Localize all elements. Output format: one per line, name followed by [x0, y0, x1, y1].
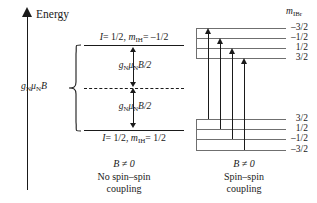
split-arrowhead-down-icon	[130, 123, 136, 128]
quantum-number-I-value: = 1/2,	[105, 132, 128, 143]
splitting-label-lower: gNμNB/2	[104, 101, 166, 112]
lower-level-label-left: I= 1/2, mIH= 1/2	[74, 132, 194, 145]
quantum-number-I-value: = 1/2,	[103, 31, 126, 42]
m-symbol: m	[286, 6, 293, 16]
lower-level-line	[196, 119, 278, 120]
quantum-number-m: m	[131, 132, 138, 143]
lower-level-label: –1/2	[282, 133, 308, 143]
energy-axis-label: Energy	[36, 8, 69, 20]
total-splitting-brace	[68, 44, 82, 132]
upper-manifold-left-edge	[196, 28, 197, 58]
energy-level-figure: Energy I= 1/2, mIH= –1/2 I= 1/2, mIH= 1/…	[0, 0, 317, 203]
transition-arrow-line	[232, 53, 233, 139]
transition-arrow-line	[220, 43, 221, 129]
transition-arrow-line	[244, 63, 245, 150]
quantum-number-m-subscript: IH	[135, 36, 142, 44]
caption-right-line2: coupling	[196, 183, 292, 196]
caption-left-field: B ≠ 0	[64, 158, 184, 171]
quantum-number-m-value: = 1/2	[145, 132, 166, 143]
upper-level-label-left: I= 1/2, mIH= –1/2	[74, 31, 194, 44]
lower-level-line	[196, 150, 278, 151]
lower-energy-level-left	[84, 130, 184, 131]
caption-left-line2: coupling	[64, 183, 184, 196]
upper-level-label: 3/2	[282, 52, 308, 62]
caption-right-field: B ≠ 0	[196, 158, 292, 171]
total-splitting-label: gNμNB	[21, 80, 47, 93]
upper-level-label: –1/2	[282, 32, 308, 42]
upper-level-label: 1/2	[282, 42, 308, 52]
lower-level-line	[196, 139, 278, 140]
lower-level-label: 3/2	[282, 113, 308, 123]
m-subscript-ibr: IBr	[293, 10, 302, 17]
quantum-number-m-value: = –1/2	[143, 31, 168, 42]
b-over-2: B/2	[138, 60, 151, 70]
lower-level-line	[196, 129, 278, 130]
split-arrowhead-down-icon	[130, 82, 136, 87]
caption-left: B ≠ 0 No spin–spin coupling	[64, 158, 184, 196]
b-over-2: B/2	[138, 101, 151, 111]
upper-energy-level-left	[84, 45, 184, 46]
caption-right: B ≠ 0 Spin–spin coupling	[196, 158, 292, 196]
m-ibr-header: mIBr	[276, 6, 312, 17]
splitting-label-upper: gNμNB/2	[104, 60, 166, 71]
lower-level-label: 1/2	[282, 123, 308, 133]
caption-right-line1: Spin–spin	[196, 171, 292, 184]
caption-left-line1: No spin–spin	[64, 171, 184, 184]
energy-axis-line	[27, 14, 28, 190]
lower-manifold-left-edge	[196, 119, 197, 150]
lower-level-label: –3/2	[282, 144, 308, 154]
transition-arrow-line	[208, 33, 209, 119]
upper-level-label: –3/2	[282, 22, 308, 32]
b-symbol: B	[41, 80, 47, 91]
